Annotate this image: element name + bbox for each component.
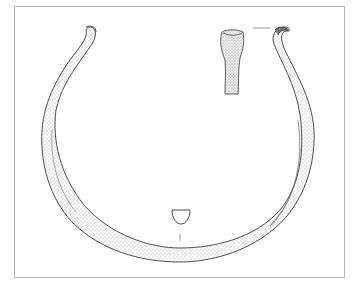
- torc-drawing: [0, 0, 352, 283]
- cross-section: [172, 210, 190, 224]
- ring-body: [42, 27, 314, 262]
- terminal-detail-view: [221, 30, 244, 94]
